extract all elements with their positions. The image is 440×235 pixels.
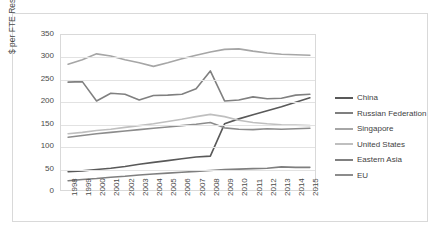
x-tick-label: 2010 — [241, 178, 249, 196]
legend-item-singapore[interactable]: Singapore — [335, 121, 439, 137]
x-tick-label: 1998 — [71, 178, 79, 196]
x-tick-label: 2000 — [99, 178, 107, 196]
gridline — [61, 170, 315, 171]
gridline — [61, 125, 315, 126]
legend-swatch — [335, 128, 353, 130]
legend-item-china[interactable]: China — [335, 90, 439, 106]
legend-item-russian-federation[interactable]: Russian Federation — [335, 106, 439, 122]
y-tick-label: 150 — [24, 120, 54, 128]
legend-swatch — [335, 143, 353, 145]
plot-area — [60, 34, 316, 191]
x-tick-label: 2004 — [156, 178, 164, 196]
x-tick-label: 2009 — [227, 178, 235, 196]
legend-item-eu[interactable]: EU — [335, 168, 439, 184]
x-tick-label: 2015 — [312, 178, 320, 196]
x-tick-label: 1999 — [85, 178, 93, 196]
legend-label: Singapore — [357, 124, 393, 133]
y-tick-label: 100 — [24, 142, 54, 150]
series-line-eastern-asia — [68, 71, 310, 101]
legend-label: China — [357, 93, 378, 102]
gridline — [61, 147, 315, 148]
legend-label: Russian Federation — [357, 109, 426, 118]
y-tick-label: 200 — [24, 97, 54, 105]
y-tick-label: 250 — [24, 75, 54, 83]
legend-swatch — [335, 112, 353, 114]
y-tick-label: 50 — [24, 165, 54, 173]
line-chart: $ per FTE Researcher 3503002502001501005… — [13, 14, 429, 223]
legend-swatch — [335, 97, 353, 99]
gridline — [61, 80, 315, 81]
x-tick-label: 2003 — [142, 178, 150, 196]
x-tick-label: 2007 — [199, 178, 207, 196]
chart-legend: ChinaRussian FederationSingaporeUnited S… — [335, 90, 439, 183]
y-tick-label: 0 — [24, 187, 54, 195]
x-tick-label: 2012 — [270, 178, 278, 196]
x-tick-label: 2006 — [184, 178, 192, 196]
x-tick-label: 2005 — [170, 178, 178, 196]
x-tick-label: 2008 — [213, 178, 221, 196]
y-tick-label: 300 — [24, 52, 54, 60]
y-axis-title: $ per FTE Researcher — [7, 0, 17, 54]
series-line-china — [68, 98, 310, 172]
x-tick-label: 2013 — [284, 178, 292, 196]
gridline — [61, 57, 315, 58]
legend-item-united-states[interactable]: United States — [335, 137, 439, 153]
legend-swatch — [335, 159, 353, 161]
y-tick-label: 350 — [24, 30, 54, 38]
legend-label: United States — [357, 140, 405, 149]
x-tick-label: 2002 — [128, 178, 136, 196]
legend-item-eastern-asia[interactable]: Eastern Asia — [335, 152, 439, 168]
legend-label: Eastern Asia — [357, 155, 402, 164]
x-tick-label: 2014 — [298, 178, 306, 196]
x-tick-label: 2011 — [256, 179, 264, 196]
legend-label: EU — [357, 171, 368, 180]
x-tick-label: 2001 — [113, 178, 121, 196]
chart-frame: $ per FTE Researcher 3503002502001501005… — [12, 13, 428, 222]
gridline — [61, 102, 315, 103]
series-lines — [61, 35, 317, 192]
legend-swatch — [335, 174, 353, 176]
